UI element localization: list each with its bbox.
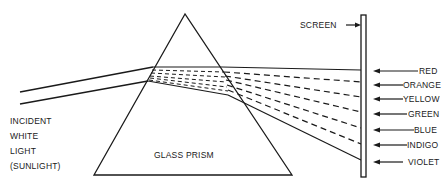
spectrum-indigo: INDIGO (373, 140, 439, 150)
svg-text:(SUNLIGHT): (SUNLIGHT) (10, 161, 61, 171)
svg-text:WHITE: WHITE (10, 131, 39, 141)
spectrum-red: RED (373, 66, 438, 76)
svg-text:INCIDENT: INCIDENT (10, 116, 52, 126)
spectrum-blue: BLUE (373, 125, 437, 135)
spectrum-yellow: YELLOW (373, 94, 440, 104)
spectrum-violet: VIOLET (373, 157, 439, 167)
incident-ray-top (20, 67, 153, 92)
incident-light-label: INCIDENT WHITE LIGHT (SUNLIGHT) (10, 116, 61, 171)
prism-dispersion-diagram: SCREEN RED ORANGE YELLOW GREEN BLUE (0, 0, 445, 184)
emergent-dashed-rays (224, 72, 361, 144)
prism-label: GLASS PRISM (154, 150, 214, 160)
spectrum-green: GREEN (373, 109, 439, 119)
incident-ray-bottom (20, 81, 148, 104)
label-green: GREEN (408, 109, 439, 119)
svg-text:LIGHT: LIGHT (10, 146, 36, 156)
label-orange: ORANGE (403, 80, 441, 90)
spectrum-labels: RED ORANGE YELLOW GREEN BLUE INDIGO (373, 66, 441, 167)
label-indigo: INDIGO (407, 140, 439, 150)
label-yellow: YELLOW (403, 94, 440, 104)
label-red: RED (419, 66, 438, 76)
label-blue: BLUE (414, 125, 437, 135)
screen (361, 15, 366, 177)
ray-red (222, 67, 361, 70)
screen-label: SCREEN (300, 20, 337, 30)
spectrum-orange: ORANGE (373, 80, 441, 90)
refracted-bottom (148, 81, 228, 95)
screen-pointer-arrowhead (355, 23, 361, 28)
ray-violet (228, 95, 361, 160)
label-violet: VIOLET (408, 157, 439, 167)
